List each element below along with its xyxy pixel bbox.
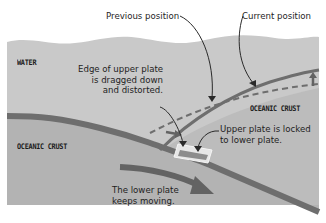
label-lower-moving-line1: The lower plate xyxy=(112,185,179,196)
label-edge-dragged-line1: Edge of upper plate xyxy=(78,64,163,75)
label-oceanic-crust-left: OCEANIC CRUST xyxy=(17,142,67,151)
label-locked-line1: Upper plate is locked xyxy=(220,124,311,135)
label-edge-dragged: Edge of upper plate is dragged down and … xyxy=(78,64,163,96)
label-locked: Upper plate is locked to lower plate. xyxy=(220,124,311,145)
label-water: WATER xyxy=(17,58,36,67)
label-edge-dragged-line2: is dragged down xyxy=(78,75,163,86)
label-lower-moving-line2: keeps moving. xyxy=(112,196,179,207)
label-edge-dragged-line3: and distorted. xyxy=(78,85,163,96)
label-oceanic-crust-right: OCEANIC CRUST xyxy=(250,104,300,113)
label-current-position: Current position xyxy=(242,11,311,22)
label-lower-moving: The lower plate keeps moving. xyxy=(112,185,179,206)
label-previous-position: Previous position xyxy=(106,11,179,22)
label-locked-line2: to lower plate. xyxy=(220,135,311,146)
